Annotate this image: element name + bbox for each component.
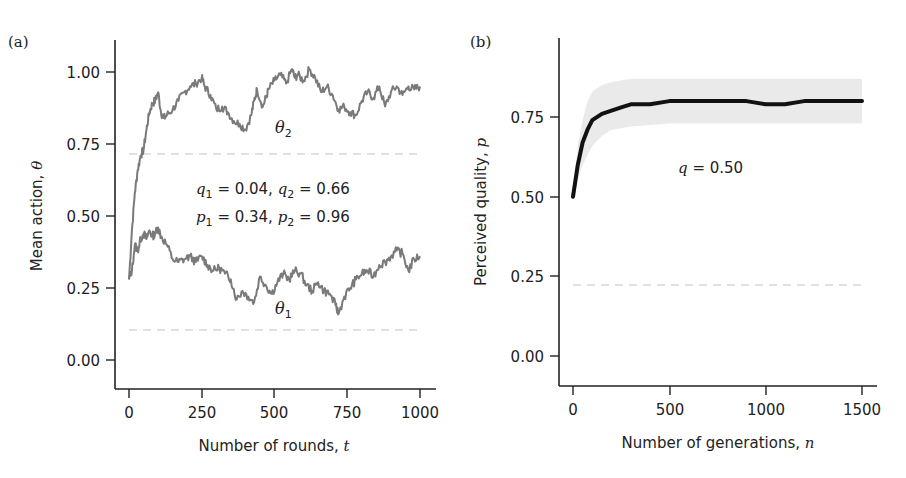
panel-a-ytick-0-5: 0.50 [67,208,100,226]
panel-a-theta2-label: θ2 [275,118,292,140]
figure: (a) 1.00 0.75 0.50 0.25 0.00 0 250 500 7… [0,0,906,478]
panel-b: (b) 0.75 0.50 0.25 0.00 0 500 1000 1500 … [470,33,881,452]
panel-a-xtick-500: 500 [260,404,289,422]
panel-a: (a) 1.00 0.75 0.50 0.25 0.00 0 250 500 7… [8,33,439,455]
panel-a-theta2-line [129,67,420,279]
panel-a-xtick-0: 0 [124,404,134,422]
panel-b-y-title: Perceived quality, p [472,138,490,286]
panel-a-ytick-1: 1.00 [67,64,100,82]
panel-b-label: (b) [470,33,491,51]
panel-a-ytick-0-75: 0.75 [67,136,100,154]
panel-a-label: (a) [8,33,29,51]
panel-b-xtick-0: 0 [568,401,578,419]
panel-b-spread-band [573,79,862,197]
panel-b-q-annotation: q = 0.50 [678,159,743,177]
panel-a-xtick-1000: 1000 [401,404,439,422]
panel-b-ytick-0: 0.00 [511,348,544,366]
panel-a-p-annotation: p1 = 0.34, p2 = 0.96 [196,208,350,229]
panel-a-theta1-label: θ1 [275,299,292,321]
panel-a-xtick-250: 250 [188,404,217,422]
panel-a-y-ticks [106,72,115,360]
panel-b-xtick-1500: 1500 [843,401,881,419]
panel-a-ytick-0: 0.00 [67,352,100,370]
panel-a-ytick-0-25: 0.25 [67,280,100,298]
panel-a-q-annotation: q1 = 0.04, q2 = 0.66 [196,180,350,201]
panel-b-ytick-0-25: 0.25 [511,268,544,286]
panel-b-xtick-500: 500 [656,401,685,419]
panel-b-xtick-1000: 1000 [747,401,785,419]
panel-b-x-ticks [573,386,862,395]
panel-a-x-title: Number of rounds, t [198,437,350,455]
panel-b-ytick-0-75: 0.75 [511,109,544,127]
panel-b-ytick-0-5: 0.50 [511,189,544,207]
panel-b-y-ticks [550,117,559,356]
panel-a-xtick-750: 750 [333,404,362,422]
panel-a-x-ticks [129,389,420,398]
panel-a-y-title: Mean action, θ [28,161,46,271]
panel-b-x-title: Number of generations, n [622,434,815,452]
